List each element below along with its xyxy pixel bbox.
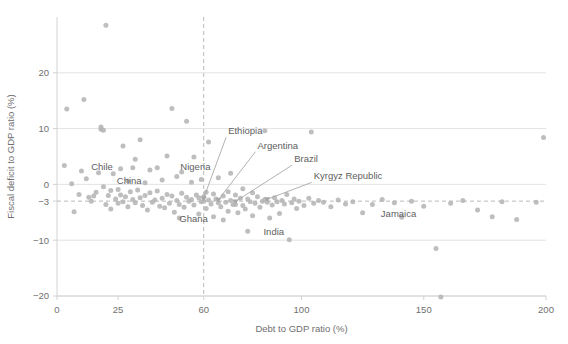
data-point — [343, 201, 348, 206]
data-point — [328, 204, 333, 209]
data-point — [191, 203, 196, 208]
data-point — [189, 180, 194, 185]
data-point — [184, 119, 189, 124]
data-point — [135, 187, 140, 192]
data-point — [172, 210, 177, 215]
data-point — [275, 199, 280, 204]
data-point — [72, 209, 77, 214]
x-tick-label: 200 — [538, 304, 554, 315]
data-point — [160, 177, 165, 182]
plot-canvas: 20100−3−10−2002560100150200Debt to GDP r… — [0, 0, 568, 344]
data-point — [475, 208, 480, 213]
x-tick-label: 150 — [416, 304, 432, 315]
data-point — [336, 198, 341, 203]
data-point — [89, 199, 94, 204]
annotation-label-jamaica: Jamaica — [381, 208, 417, 219]
data-point — [240, 186, 245, 191]
data-point — [69, 181, 74, 186]
data-point — [301, 203, 306, 208]
data-point — [79, 169, 84, 174]
data-point — [155, 165, 160, 170]
data-point — [84, 176, 89, 181]
data-point — [118, 193, 123, 198]
annotation-label-argentina: Argentina — [257, 140, 298, 151]
data-point — [216, 175, 221, 180]
data-point — [182, 205, 187, 210]
data-point — [111, 171, 116, 176]
y-tick-label: 20 — [38, 67, 49, 78]
y-tick-label: 0 — [44, 179, 49, 190]
data-point — [167, 201, 172, 206]
data-point — [103, 23, 108, 28]
data-point — [235, 210, 240, 215]
data-point — [277, 211, 282, 216]
data-point — [287, 237, 292, 242]
annotation-label-china: China — [117, 175, 143, 186]
data-point — [306, 196, 311, 201]
data-point — [499, 199, 504, 204]
data-point — [211, 191, 216, 196]
data-point — [145, 208, 150, 213]
data-point — [140, 203, 145, 208]
data-point — [191, 155, 196, 160]
data-point — [101, 128, 106, 133]
data-point — [81, 97, 86, 102]
data-point — [409, 199, 414, 204]
data-point — [380, 197, 385, 202]
data-point — [121, 143, 126, 148]
data-point — [514, 217, 519, 222]
data-point — [113, 196, 118, 201]
data-point — [370, 202, 375, 207]
data-point — [94, 190, 99, 195]
data-point — [223, 200, 228, 205]
data-point — [270, 203, 275, 208]
data-point — [541, 135, 546, 140]
data-point — [128, 189, 133, 194]
data-point — [77, 192, 82, 197]
data-point — [103, 202, 108, 207]
data-point — [282, 201, 287, 206]
scatter-chart: 20100−3−10−2002560100150200Debt to GDP r… — [0, 0, 568, 344]
data-point — [392, 200, 397, 205]
data-point — [177, 202, 182, 207]
data-point — [157, 204, 162, 209]
data-point — [211, 214, 216, 219]
annotation-label-india: India — [263, 226, 284, 237]
data-point — [147, 190, 152, 195]
annotation-leader-line — [235, 165, 292, 201]
data-point — [108, 206, 113, 211]
data-point — [152, 198, 157, 203]
data-point — [116, 187, 121, 192]
data-point — [160, 196, 165, 201]
data-point — [108, 188, 113, 193]
data-point — [143, 180, 148, 185]
y-tick-label: 10 — [38, 123, 49, 134]
data-point — [309, 129, 314, 134]
data-point — [174, 174, 179, 179]
data-point — [106, 193, 111, 198]
data-point — [118, 166, 123, 171]
data-point — [253, 201, 258, 206]
data-point — [226, 209, 231, 214]
data-point — [199, 177, 204, 182]
data-point — [460, 198, 465, 203]
data-point — [147, 167, 152, 172]
data-point — [209, 201, 214, 206]
data-point — [133, 200, 138, 205]
annotation-label-ethiopia: Ethiopia — [228, 125, 263, 136]
data-point — [121, 199, 126, 204]
data-point — [165, 192, 170, 197]
data-point — [245, 229, 250, 234]
data-point — [255, 194, 260, 199]
data-point — [243, 206, 248, 211]
data-point — [534, 200, 539, 205]
data-point — [490, 214, 495, 219]
data-point — [321, 200, 326, 205]
data-point — [206, 139, 211, 144]
data-point — [448, 201, 453, 206]
data-point — [179, 191, 184, 196]
data-point — [169, 194, 174, 199]
data-point — [311, 201, 316, 206]
data-point — [189, 197, 194, 202]
y-tick-label: −3 — [38, 196, 49, 207]
